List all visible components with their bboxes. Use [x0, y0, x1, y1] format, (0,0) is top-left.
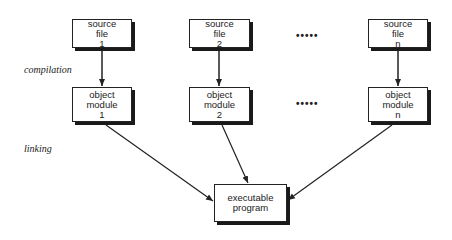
object-module-1-line1: object	[89, 90, 114, 100]
object-module-1-line2: module	[86, 100, 117, 110]
arrow-object1-to-executable	[106, 125, 213, 201]
ellipsis-source-row: •••••	[296, 30, 319, 41]
source-file-1-line1: source	[88, 19, 117, 29]
source-file-2-line2: file	[213, 29, 225, 39]
linking-label: linking	[24, 143, 52, 154]
source-file-n-box: source file n	[368, 19, 428, 48]
source-file-2-line1: source	[205, 19, 234, 29]
source-file-n-line3: n	[395, 39, 400, 49]
compilation-label: compilation	[24, 64, 72, 75]
object-module-n-line2: module	[382, 100, 413, 110]
source-file-2-box: source file 2	[189, 19, 250, 48]
executable-line2: program	[233, 203, 268, 213]
object-module-2-line1: object	[207, 90, 232, 100]
object-module-2-line3: 2	[217, 110, 222, 120]
source-file-1-line2: file	[96, 29, 108, 39]
arrow-object2-to-executable	[222, 125, 248, 183]
source-file-n-line1: source	[384, 19, 413, 29]
object-module-2-box: object module 2	[189, 87, 250, 122]
ellipsis-object-row: •••••	[296, 98, 319, 109]
source-file-n-line2: file	[392, 29, 404, 39]
source-file-1-box: source file 1	[72, 19, 132, 48]
object-module-1-box: object module 1	[72, 87, 132, 122]
executable-program-box: executable program	[214, 184, 287, 222]
compile-link-diagram: source file 1 source file 2 source file …	[0, 0, 452, 240]
arrow-objectn-to-executable	[288, 125, 392, 200]
object-module-n-box: object module n	[368, 87, 428, 122]
source-file-1-line3: 1	[99, 39, 104, 49]
object-module-n-line3: n	[395, 110, 400, 120]
object-module-1-line3: 1	[99, 110, 104, 120]
object-module-n-line1: object	[385, 90, 410, 100]
source-file-2-line3: 2	[217, 39, 222, 49]
object-module-2-line2: module	[204, 100, 235, 110]
